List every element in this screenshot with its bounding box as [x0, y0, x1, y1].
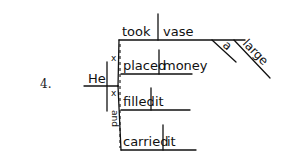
predicate-2-object: money: [163, 58, 208, 73]
exercise-number: 4.: [40, 77, 51, 91]
predicate-3-object: it: [155, 94, 164, 109]
predicate-2-verb: placed: [123, 58, 166, 73]
conjunction-word: and: [110, 110, 120, 127]
fork-upper-line: [118, 40, 119, 86]
predicate-1-object: vase: [163, 24, 193, 39]
sentence-diagram: 4. He x x and took vase a large placed m…: [0, 0, 290, 163]
predicate-3-verb: filled: [123, 94, 155, 109]
predicate-1-verb: took: [122, 24, 151, 39]
predicate-4-object: it: [167, 134, 176, 149]
understood-x-2: x: [111, 88, 117, 98]
subject-word: He: [88, 71, 106, 86]
understood-x-1: x: [111, 53, 117, 63]
predicate-4-verb: carried: [123, 134, 168, 149]
